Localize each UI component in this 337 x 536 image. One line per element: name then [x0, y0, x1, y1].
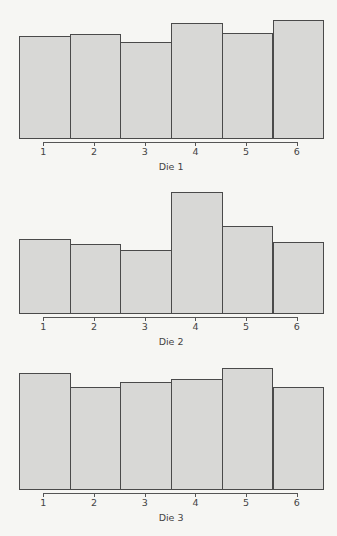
x-tick-label: 4: [185, 146, 205, 157]
x-tick-label: 5: [236, 497, 256, 508]
bar-face-5: [222, 33, 274, 139]
bar-face-1: [19, 373, 71, 490]
x-tick-label: 5: [236, 146, 256, 157]
x-axis-title: Die 2: [141, 336, 201, 347]
bar-face-6: [273, 20, 325, 139]
x-axis-line: [43, 317, 298, 318]
bar-face-4: [171, 192, 223, 314]
bar-face-3: [120, 250, 172, 314]
x-axis-title: Die 3: [141, 512, 201, 523]
x-tick-label: 5: [236, 321, 256, 332]
x-tick-label: 6: [287, 321, 307, 332]
x-tick-label: 3: [135, 146, 155, 157]
x-tick-label: 2: [84, 146, 104, 157]
bar-face-2: [70, 34, 122, 139]
bar-face-4: [171, 379, 223, 490]
x-tick-label: 6: [287, 497, 307, 508]
bar-face-4: [171, 23, 223, 139]
x-tick-label: 4: [185, 321, 205, 332]
x-tick-label: 3: [135, 497, 155, 508]
bar-face-2: [70, 244, 122, 314]
bar-face-5: [222, 368, 274, 490]
x-tick-label: 1: [33, 321, 53, 332]
x-axis-line: [43, 493, 298, 494]
bar-face-1: [19, 36, 71, 139]
bar-face-1: [19, 239, 71, 314]
x-tick-label: 4: [185, 497, 205, 508]
x-axis-line: [43, 142, 298, 143]
bar-face-2: [70, 387, 122, 490]
x-tick-label: 2: [84, 321, 104, 332]
x-tick-label: 3: [135, 321, 155, 332]
x-tick-label: 2: [84, 497, 104, 508]
bar-face-6: [273, 242, 325, 314]
bar-face-3: [120, 382, 172, 490]
x-tick-label: 1: [33, 146, 53, 157]
x-tick-label: 6: [287, 146, 307, 157]
bar-face-6: [273, 387, 325, 490]
bar-face-3: [120, 42, 172, 139]
bar-face-5: [222, 226, 274, 314]
x-axis-title: Die 1: [141, 161, 201, 172]
x-tick-label: 1: [33, 497, 53, 508]
